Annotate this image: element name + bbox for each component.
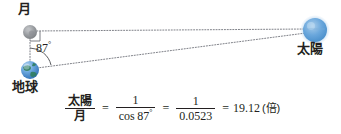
- earth-label: 地球: [12, 80, 38, 93]
- moon-icon: [23, 25, 37, 39]
- earth-icon: [21, 61, 39, 79]
- angle-degree-symbol: °: [48, 40, 51, 49]
- diagram-canvas: 月 地球 太陽 87° 太陽 月 = 1 cos 87° = 1 0.0523 …: [0, 0, 341, 134]
- ratio-denominator: 月: [71, 109, 89, 123]
- value-numerator: 1: [190, 94, 202, 108]
- angle-value: 87: [36, 41, 48, 55]
- cos-numerator: 1: [130, 93, 142, 107]
- cos-fraction: 1 cos 87°: [116, 93, 156, 123]
- ratio-numerator: 太陽: [65, 94, 95, 108]
- cos-function: cos: [119, 109, 135, 123]
- cos-denominator: cos 87°: [116, 108, 156, 123]
- value-denominator: 0.0523: [176, 109, 215, 123]
- result-value: 19.12: [233, 102, 260, 114]
- line-earth-sun: [37, 33, 306, 68]
- moon-label: 月: [18, 2, 31, 15]
- result-unit: (倍): [262, 103, 280, 114]
- angle-label: 87°: [36, 41, 51, 54]
- line-moon-sun: [34, 29, 308, 31]
- value-fraction: 1 0.0523: [176, 94, 215, 123]
- equals-sign-3: =: [222, 102, 229, 114]
- ratio-fraction: 太陽 月: [65, 94, 95, 123]
- cos-degree-symbol: °: [149, 108, 152, 117]
- sun-label: 太陽: [297, 42, 323, 55]
- formula-expression: 太陽 月 = 1 cos 87° = 1 0.0523 = 19.12 (倍): [62, 93, 280, 123]
- cos-angle: 87: [137, 109, 149, 123]
- equals-sign-2: =: [162, 102, 169, 114]
- equals-sign-1: =: [102, 102, 109, 114]
